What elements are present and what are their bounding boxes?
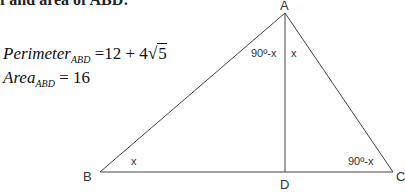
vertex-label-a: A bbox=[280, 0, 289, 13]
triangle-diagram: A B C D 90º-x x x 90º-x bbox=[0, 0, 405, 192]
side-AB bbox=[100, 13, 285, 172]
vertex-label-d: D bbox=[280, 177, 289, 192]
angle-label-b: x bbox=[131, 155, 137, 167]
vertex-label-b: B bbox=[83, 169, 92, 184]
vertex-label-c: C bbox=[396, 169, 405, 184]
side-AC bbox=[285, 13, 393, 172]
angle-label-c: 90º-x bbox=[348, 155, 374, 167]
angle-label-a-right: x bbox=[291, 47, 297, 59]
angle-label-a-left: 90º-x bbox=[251, 47, 277, 59]
